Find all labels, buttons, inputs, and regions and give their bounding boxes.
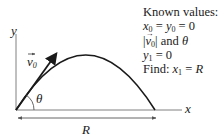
known-values-heading: Known values: xyxy=(143,5,218,19)
x-axis-label: x xyxy=(185,102,191,115)
angle-label: θ xyxy=(36,92,42,105)
known-line-velocity-angle: |→v0| and θ xyxy=(143,34,218,48)
known-line-initial-position: x0 = y0 = 0 xyxy=(143,19,218,33)
y-axis-label: y xyxy=(11,24,17,37)
known-line-final-height: y1 = 0 xyxy=(143,48,218,62)
velocity-label: v0 xyxy=(27,55,37,68)
find-line: Find: x1 = R xyxy=(143,62,218,76)
range-label: R xyxy=(82,123,90,136)
angle-arc xyxy=(27,95,35,110)
known-values-panel: Known values: x0 = y0 = 0 |→v0| and θ y1… xyxy=(143,5,218,76)
